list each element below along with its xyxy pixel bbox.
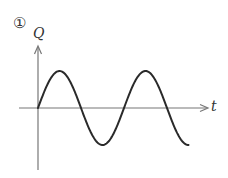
plot-area bbox=[0, 0, 228, 178]
sine-wave-figure: ① Q t bbox=[0, 0, 228, 178]
x-axis bbox=[19, 105, 208, 112]
